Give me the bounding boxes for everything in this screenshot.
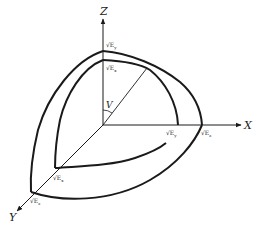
angle-v-arc	[103, 110, 112, 113]
outer-x-intercept-label: √Ez	[201, 129, 211, 138]
inner-y-intercept-label: √Ex	[53, 174, 64, 183]
axes	[17, 19, 241, 211]
inner-x-intercept-label: √Ey	[166, 129, 177, 138]
inner-surface	[55, 60, 178, 168]
outer-zy-arc	[31, 51, 103, 192]
x-axis-label: X	[243, 119, 253, 132]
direction-line	[103, 68, 147, 125]
z-axis-label: Z	[99, 5, 108, 18]
angle-v-label: V	[106, 100, 114, 110]
y-axis-label: Y	[9, 211, 18, 224]
optical-indicatrix-diagram: Z X Y V √Ey √Ez √Ez √Ex √Ey √Ex	[0, 0, 258, 226]
inner-z-intercept-label: √Ex	[106, 64, 117, 73]
inner-xy-arc	[55, 143, 166, 168]
outer-z-intercept-label: √Ey	[106, 41, 117, 50]
inner-zy-arc	[55, 60, 103, 168]
outer-y-intercept-label: √Ez	[30, 197, 40, 206]
